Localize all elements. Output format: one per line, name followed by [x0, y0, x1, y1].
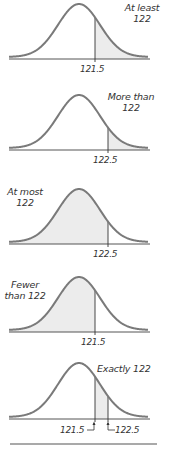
label-line-1: At least: [118, 2, 166, 13]
shaded-area: [95, 377, 108, 419]
label-line-1: More than: [98, 91, 164, 102]
label-line-2: than 122: [2, 290, 48, 301]
panel-label-at-most: At most 122: [2, 186, 48, 208]
cutoff-label-lower: 121.5: [60, 425, 84, 435]
cutoff-label: 121.5: [80, 64, 104, 74]
cutoff-label: 122.5: [93, 155, 117, 165]
cutoff-label-upper: 122.5: [115, 425, 139, 435]
panel-label-at-least: At least 122: [118, 2, 166, 24]
arrow-head-122-5: [107, 422, 110, 426]
continuity-correction-figure: At least 122 121.5 More than 122 122.5 A…: [0, 0, 169, 454]
panel-label-fewer-than: Fewer than 122: [2, 279, 48, 301]
cutoff-label: 121.5: [81, 337, 105, 347]
label-line-1: At most: [2, 186, 48, 197]
label-line-1: Exactly 122: [97, 363, 151, 374]
arrow-head-121-5: [93, 422, 96, 426]
label-line-2: 122: [2, 197, 48, 208]
label-line-2: 122: [118, 13, 166, 24]
panel-label-exactly: Exactly 122: [97, 363, 151, 374]
panel-label-more-than: More than 122: [98, 91, 164, 113]
cutoff-label: 122.5: [93, 249, 117, 259]
label-line-2: 122: [98, 102, 164, 113]
label-line-1: Fewer: [2, 279, 48, 290]
